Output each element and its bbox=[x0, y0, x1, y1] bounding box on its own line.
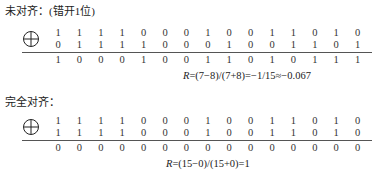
bit-cell: 1 bbox=[117, 127, 127, 139]
bit-cell: 0 bbox=[53, 39, 63, 51]
bit-cell: 0 bbox=[267, 142, 277, 154]
bit-cell: 1 bbox=[96, 39, 106, 51]
bit-cell: 0 bbox=[181, 127, 191, 139]
bit-cell: 1 bbox=[203, 54, 213, 66]
bit-cell: 0 bbox=[117, 142, 127, 154]
bit-cell: 0 bbox=[353, 115, 363, 127]
bit-cell: 0 bbox=[139, 27, 149, 39]
bit-cell: 1 bbox=[74, 39, 84, 51]
bit-cell: 1 bbox=[139, 54, 149, 66]
bit-cell: 0 bbox=[224, 142, 234, 154]
bit-cell: 1 bbox=[203, 27, 213, 39]
bit-cell: 0 bbox=[310, 142, 320, 154]
bit-cell: 0 bbox=[246, 142, 256, 154]
bit-cell: 0 bbox=[203, 39, 213, 51]
bit-cell: 0 bbox=[353, 27, 363, 39]
bit-cell: 1 bbox=[353, 39, 363, 51]
bit-cell: 0 bbox=[310, 115, 320, 127]
bit-cell: 0 bbox=[160, 54, 170, 66]
formula-expression: =(7−8)/(7+8)=−1/15≈−0.067 bbox=[189, 70, 311, 81]
bit-cell: 0 bbox=[310, 27, 320, 39]
bit-cell: 1 bbox=[288, 115, 298, 127]
bit-cell: 0 bbox=[331, 39, 341, 51]
bit-cell: 0 bbox=[53, 142, 63, 154]
section-heading: 未对齐：(错开1位) bbox=[5, 2, 95, 18]
bit-cell: 1 bbox=[224, 54, 234, 66]
bit-cell: 1 bbox=[74, 27, 84, 39]
divider-line bbox=[22, 52, 372, 53]
bit-cell: 1 bbox=[267, 127, 277, 139]
section-heading: 完全对齐： bbox=[5, 93, 60, 109]
bit-cell: 0 bbox=[288, 142, 298, 154]
bit-cell: 1 bbox=[288, 127, 298, 139]
bit-cell: 1 bbox=[310, 54, 320, 66]
bit-cell: 0 bbox=[96, 142, 106, 154]
bit-cell: 1 bbox=[117, 115, 127, 127]
bit-cell: 1 bbox=[96, 127, 106, 139]
bit-cell: 0 bbox=[203, 142, 213, 154]
divider-line bbox=[22, 140, 372, 141]
bit-cell: 0 bbox=[310, 127, 320, 139]
bit-cell: 0 bbox=[160, 142, 170, 154]
bit-cell: 1 bbox=[267, 27, 277, 39]
bit-cell: 0 bbox=[181, 39, 191, 51]
bit-cell: 1 bbox=[224, 39, 234, 51]
bit-cell: 1 bbox=[288, 39, 298, 51]
bit-cell: 0 bbox=[160, 39, 170, 51]
bit-cell: 0 bbox=[160, 127, 170, 139]
bit-cell: 0 bbox=[224, 127, 234, 139]
bit-cell: 0 bbox=[74, 54, 84, 66]
bit-cell: 1 bbox=[331, 54, 341, 66]
bit-cell: 1 bbox=[96, 27, 106, 39]
bit-cell: 0 bbox=[288, 54, 298, 66]
bit-cell: 0 bbox=[181, 54, 191, 66]
bit-cell: 1 bbox=[117, 27, 127, 39]
bit-cell: 0 bbox=[139, 127, 149, 139]
bit-cell: 1 bbox=[74, 115, 84, 127]
bit-cell: 0 bbox=[117, 54, 127, 66]
bit-cell: 1 bbox=[331, 127, 341, 139]
bit-cell: 1 bbox=[53, 127, 63, 139]
bit-cell: 1 bbox=[203, 127, 213, 139]
bit-cell: 0 bbox=[353, 142, 363, 154]
bit-cell: 0 bbox=[160, 27, 170, 39]
bit-cell: 0 bbox=[224, 27, 234, 39]
bit-cell: 0 bbox=[246, 127, 256, 139]
bit-cell: 0 bbox=[353, 127, 363, 139]
bit-cell: 0 bbox=[267, 39, 277, 51]
bit-cell: 0 bbox=[139, 115, 149, 127]
bit-cell: 1 bbox=[331, 27, 341, 39]
bit-cell: 1 bbox=[53, 54, 63, 66]
bit-cell: 1 bbox=[331, 115, 341, 127]
correlation-formula: R=(15−0)/(15+0)=1 bbox=[166, 158, 250, 169]
bit-cell: 1 bbox=[203, 115, 213, 127]
bit-cell: 0 bbox=[246, 27, 256, 39]
bit-cell: 0 bbox=[74, 142, 84, 154]
bit-cell: 1 bbox=[353, 54, 363, 66]
bit-cell: 1 bbox=[117, 39, 127, 51]
bit-cell: 1 bbox=[53, 115, 63, 127]
bit-cell: 1 bbox=[53, 27, 63, 39]
bit-cell: 1 bbox=[74, 127, 84, 139]
bit-cell: 0 bbox=[331, 142, 341, 154]
bit-cell: 0 bbox=[246, 54, 256, 66]
bit-cell: 1 bbox=[310, 39, 320, 51]
bit-cell: 0 bbox=[246, 39, 256, 51]
bit-cell: 0 bbox=[181, 27, 191, 39]
correlation-formula: R=(7−8)/(7+8)=−1/15≈−0.067 bbox=[183, 70, 311, 81]
bit-cell: 1 bbox=[267, 54, 277, 66]
formula-expression: =(15−0)/(15+0)=1 bbox=[172, 158, 249, 169]
bit-cell: 0 bbox=[181, 115, 191, 127]
xor-circle-plus-icon bbox=[23, 31, 39, 47]
bit-cell: 0 bbox=[96, 54, 106, 66]
bit-cell: 0 bbox=[246, 115, 256, 127]
bit-cell: 1 bbox=[267, 115, 277, 127]
bit-cell: 1 bbox=[139, 39, 149, 51]
xor-circle-plus-icon bbox=[23, 119, 39, 135]
bit-cell: 0 bbox=[224, 115, 234, 127]
bit-cell: 0 bbox=[139, 142, 149, 154]
bit-cell: 0 bbox=[181, 142, 191, 154]
bit-cell: 0 bbox=[160, 115, 170, 127]
bit-cell: 1 bbox=[288, 27, 298, 39]
bit-cell: 1 bbox=[96, 115, 106, 127]
